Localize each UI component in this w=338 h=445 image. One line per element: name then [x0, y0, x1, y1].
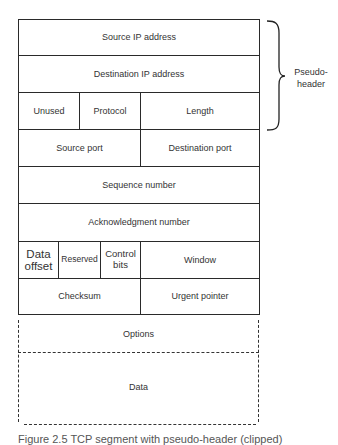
field-sequence-number: Sequence number — [18, 166, 260, 204]
field-length: Length — [140, 92, 260, 130]
field-label: Checksum — [58, 291, 101, 301]
field-label: Destination IP address — [94, 69, 184, 79]
pseudo-header-label: Pseudo- header — [288, 66, 334, 90]
pseudo-header-label-line2: header — [297, 79, 325, 89]
field-label: Reserved — [61, 255, 97, 265]
figure-caption: Figure 2.5 TCP segment with pseudo-heade… — [18, 433, 282, 445]
field-source-port: Source port — [18, 129, 141, 167]
field-window: Window — [140, 241, 260, 279]
options-data-separator — [18, 352, 259, 353]
field-label: Unused — [33, 106, 64, 116]
field-data-offset: Data offset — [18, 241, 59, 279]
field-reserved: Reserved — [58, 241, 101, 279]
field-control-bits: Control bits — [100, 241, 141, 279]
field-options: Options — [18, 329, 259, 339]
field-label: Urgent pointer — [171, 291, 228, 301]
field-acknowledgment-number: Acknowledgment number — [18, 203, 260, 242]
field-unused: Unused — [18, 92, 80, 130]
field-label: Source port — [56, 143, 103, 153]
field-label: Control bits — [104, 249, 138, 271]
field-label: Length — [186, 106, 214, 116]
field-source-ip-address: Source IP address — [18, 19, 260, 56]
field-label: Source IP address — [102, 32, 176, 42]
field-label: Protocol — [93, 106, 126, 116]
field-destination-port: Destination port — [140, 129, 260, 167]
field-label: Sequence number — [102, 180, 176, 190]
field-data: Data — [18, 382, 259, 392]
data-bottom-border — [24, 424, 256, 425]
field-protocol: Protocol — [79, 92, 141, 130]
field-label: Window — [184, 255, 216, 265]
field-label: Data offset — [24, 248, 54, 272]
field-checksum: Checksum — [18, 278, 141, 315]
field-urgent-pointer: Urgent pointer — [140, 278, 260, 315]
field-label: Destination port — [168, 143, 231, 153]
pseudo-header-label-line1: Pseudo- — [294, 67, 328, 77]
field-label: Acknowledgment number — [88, 217, 190, 227]
field-destination-ip-address: Destination IP address — [18, 55, 260, 93]
